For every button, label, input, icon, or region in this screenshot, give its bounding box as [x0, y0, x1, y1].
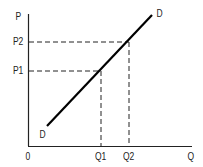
- chart-canvas: [0, 0, 203, 167]
- y-axis-label: P: [16, 12, 22, 22]
- x-tick-q2: Q2: [123, 152, 134, 162]
- y-tick-p1: P1: [13, 66, 23, 76]
- origin-label: 0: [25, 152, 30, 162]
- x-axis-label: Q: [188, 152, 195, 162]
- supply-demand-chart: P P2 P1 0 Q1 Q2 Q D D: [0, 0, 203, 167]
- y-tick-p2: P2: [13, 37, 23, 47]
- curve-end-label: D: [157, 9, 163, 19]
- x-tick-q1: Q1: [95, 152, 106, 162]
- curve-start-label: D: [40, 130, 46, 140]
